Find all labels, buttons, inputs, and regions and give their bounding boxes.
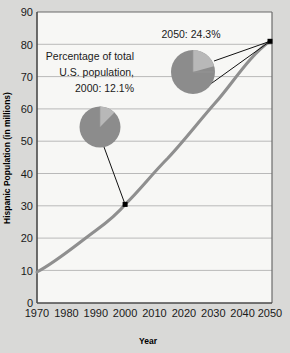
annotation-2050: 2050: 24.3% bbox=[162, 28, 221, 40]
pie-2050 bbox=[171, 50, 215, 94]
y-tick-40: 40 bbox=[21, 168, 33, 180]
x-tick-1990: 1990 bbox=[84, 307, 108, 319]
y-tick-30: 30 bbox=[21, 200, 33, 212]
y-tick-60: 60 bbox=[21, 103, 33, 115]
x-tick-2010: 2010 bbox=[142, 307, 166, 319]
marker-2050 bbox=[268, 39, 273, 44]
x-axis-title: Year bbox=[139, 336, 158, 346]
x-tick-2030: 2030 bbox=[201, 307, 225, 319]
y-tick-50: 50 bbox=[21, 135, 33, 147]
x-tick-2000: 2000 bbox=[113, 307, 137, 319]
marker-2000 bbox=[123, 202, 128, 207]
annotation-2000-line3: 2000: 12.1% bbox=[75, 82, 134, 94]
y-tick-80: 80 bbox=[21, 39, 33, 51]
x-tick-2020: 2020 bbox=[172, 307, 196, 319]
y-tick-10: 10 bbox=[21, 265, 33, 277]
pie-2000 bbox=[80, 107, 121, 148]
x-tick-2040: 2040 bbox=[230, 307, 254, 319]
x-tick-2050: 2050 bbox=[258, 307, 282, 319]
annotation-2000-line2: U.S. population, bbox=[59, 66, 134, 78]
x-axis-tick-labels: 1970 1980 1990 2000 2010 2020 2030 2040 … bbox=[25, 307, 282, 319]
x-tick-1980: 1980 bbox=[54, 307, 78, 319]
y-axis-title: Hispanic Population (in millions) bbox=[2, 92, 12, 224]
x-tick-1970: 1970 bbox=[25, 307, 49, 319]
y-tick-20: 20 bbox=[21, 232, 33, 244]
annotation-2000-line1: Percentage of total bbox=[46, 50, 134, 62]
y-tick-90: 90 bbox=[21, 6, 33, 18]
y-tick-70: 70 bbox=[21, 71, 33, 83]
hispanic-population-chart: 0 10 20 30 40 50 60 70 80 90 1970 1980 1… bbox=[0, 0, 290, 353]
